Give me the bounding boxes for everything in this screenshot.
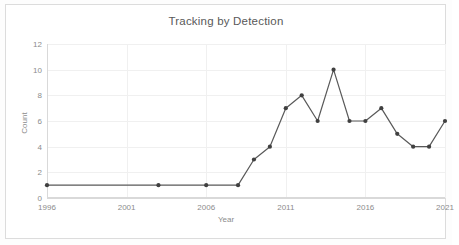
line-series [47,44,445,198]
data-point-marker [363,119,367,123]
data-point-marker [252,157,256,161]
series-line [47,70,445,186]
y-tick-label: 4 [8,142,42,151]
data-point-marker [316,119,320,123]
x-tick-label: 2006 [186,203,226,212]
data-point-marker [45,183,49,187]
data-point-marker [443,119,447,123]
data-point-marker [204,183,208,187]
data-point-marker [156,183,160,187]
data-point-marker [300,93,304,97]
x-tick-label: 2011 [266,203,306,212]
data-point-marker [236,183,240,187]
data-point-marker [284,106,288,110]
data-point-marker [395,132,399,136]
y-tick-label: 0 [8,194,42,203]
data-point-marker [379,106,383,110]
chart-title: Tracking by Detection [0,15,452,27]
x-tick-label: 2001 [107,203,147,212]
x-axis-label: Year [0,215,452,224]
gridline-horizontal [47,198,445,199]
data-point-marker [331,68,335,72]
x-tick-label: 2021 [425,203,459,212]
x-tick-label: 2016 [345,203,385,212]
data-point-marker [427,145,431,149]
y-tick-label: 8 [8,91,42,100]
data-point-marker [268,145,272,149]
data-point-marker [347,119,351,123]
data-point-marker [411,145,415,149]
plot-area [47,44,445,198]
x-tick-label: 1996 [27,203,67,212]
y-tick-label: 6 [8,117,42,126]
y-tick-label: 12 [8,40,42,49]
y-tick-label: 10 [8,65,42,74]
y-tick-label: 2 [8,168,42,177]
